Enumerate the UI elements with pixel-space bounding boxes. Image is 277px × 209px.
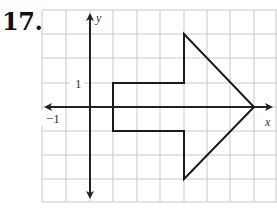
axes [46, 15, 271, 197]
x-tick-label-neg1: −1 [46, 111, 60, 126]
coordinate-graph: y x 1 −1 [0, 0, 277, 209]
y-tick-label-1: 1 [75, 76, 82, 91]
y-axis-label: y [95, 11, 102, 25]
x-axis-label: x [264, 115, 271, 129]
